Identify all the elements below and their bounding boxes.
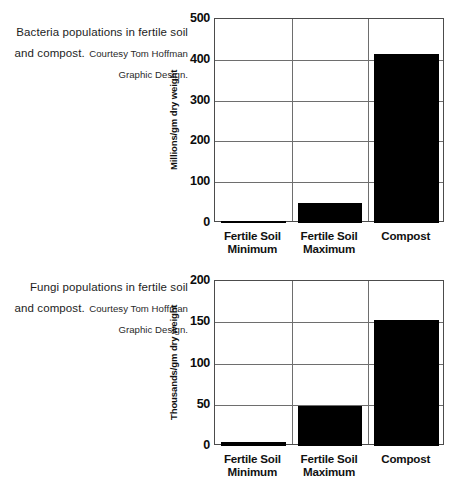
- plot-area-fungi: [214, 280, 444, 445]
- y-tick-label: 0: [203, 215, 210, 229]
- bar: [374, 320, 439, 446]
- y-axis-title-label: Thousands/gm dry weight: [168, 305, 179, 420]
- y-tick-label: 500: [190, 11, 210, 25]
- bar: [221, 221, 286, 223]
- y-tick-label: 200: [190, 133, 210, 147]
- y-tick-label: 400: [190, 52, 210, 66]
- figure-bacteria-caption: Bacteria populations in fertile soil and…: [8, 20, 188, 83]
- gridline-vertical: [292, 281, 293, 444]
- bar: [221, 442, 286, 446]
- plot-area-bacteria: [214, 18, 444, 222]
- y-tick-label: 150: [190, 314, 210, 328]
- y-tick-label: 100: [190, 356, 210, 370]
- y-axis-ticks-bacteria: 0100200300400500: [182, 18, 210, 222]
- x-axis-category-label: Fertile SoilMinimum: [214, 229, 291, 255]
- x-axis-category-label: Fertile SoilMinimum: [214, 452, 291, 478]
- y-axis-ticks-fungi: 050100150200: [182, 280, 210, 445]
- bar: [374, 54, 439, 223]
- y-tick-label: 0: [203, 438, 210, 452]
- figure-fungi-caption: Fungi populations in fertile soil and co…: [8, 275, 188, 338]
- gridline-vertical: [368, 19, 369, 221]
- x-axis-category-label: Fertile SoilMaximum: [291, 452, 368, 478]
- x-axis-category-label: Compost: [367, 229, 444, 242]
- y-tick-label: 300: [190, 93, 210, 107]
- figure-bacteria: Bacteria populations in fertile soil and…: [0, 0, 465, 262]
- y-tick-label: 200: [190, 273, 210, 287]
- y-tick-label: 50: [197, 397, 210, 411]
- bar: [298, 406, 363, 446]
- x-axis-category-label: Compost: [367, 452, 444, 465]
- y-axis-title-label: Millions/gm dry weight: [168, 70, 179, 170]
- gridline-vertical: [368, 281, 369, 444]
- bar: [298, 203, 363, 223]
- x-axis-category-label: Fertile SoilMaximum: [291, 229, 368, 255]
- figure-fungi: Fungi populations in fertile soil and co…: [0, 262, 465, 502]
- y-tick-label: 100: [190, 174, 210, 188]
- gridline-vertical: [292, 19, 293, 221]
